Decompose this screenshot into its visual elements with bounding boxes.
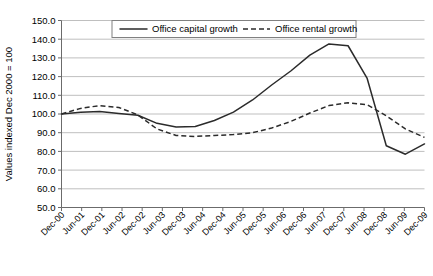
- line-chart: 50.060.070.080.090.0100.0110.0120.0130.0…: [0, 0, 433, 276]
- series-line-1: [62, 44, 425, 154]
- legend-label-2: Office rental growth: [275, 23, 357, 34]
- y-tick-label: 150.0: [32, 15, 56, 26]
- y-axis-title-text: Values indexed Dec 2000 = 100: [3, 47, 14, 181]
- series-line-2: [62, 103, 425, 138]
- data-series: [62, 44, 425, 154]
- chart-container: 50.060.070.080.090.0100.0110.0120.0130.0…: [0, 0, 433, 276]
- y-tick-label: 70.0: [37, 165, 56, 176]
- y-tick-label: 140.0: [32, 34, 56, 45]
- y-tick-label: 110.0: [32, 90, 55, 101]
- y-tick-label: 130.0: [32, 52, 56, 63]
- gridlines: [62, 21, 425, 189]
- y-axis-title: Values indexed Dec 2000 = 100: [3, 47, 14, 181]
- legend-label-1: Office capital growth: [152, 23, 238, 34]
- x-axis-ticks: Dec-00Jun-01Dec-01Jun-02Dec-02Jun-03Dec-…: [39, 208, 430, 238]
- chart-legend: Office capital growthOffice rental growt…: [112, 21, 357, 38]
- y-tick-label: 100.0: [32, 108, 56, 119]
- y-tick-label: 60.0: [37, 183, 56, 194]
- y-tick-label: 120.0: [32, 71, 56, 82]
- y-axis-ticks: 50.060.070.080.090.0100.0110.0120.0130.0…: [32, 15, 62, 213]
- x-tick-label: Dec-00: [39, 210, 67, 238]
- y-tick-label: 50.0: [37, 202, 56, 213]
- y-tick-label: 80.0: [37, 146, 56, 157]
- y-tick-label: 90.0: [37, 127, 56, 138]
